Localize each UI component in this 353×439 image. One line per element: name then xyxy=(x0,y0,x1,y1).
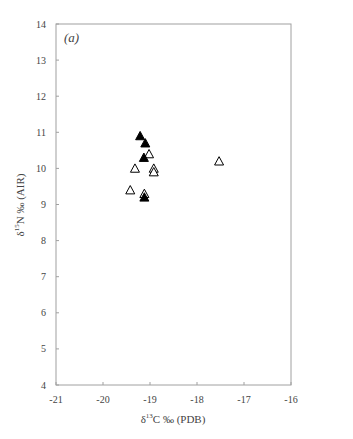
x-tick-label: -20 xyxy=(96,394,109,405)
y-tick-label: 11 xyxy=(36,127,46,138)
y-tick-label: 5 xyxy=(41,343,46,354)
x-tick-label: -18 xyxy=(190,394,203,405)
y-tick-label: 12 xyxy=(36,91,46,102)
x-tick-label: -21 xyxy=(49,394,62,405)
y-tick-label: 7 xyxy=(41,271,46,282)
panel-label: (a) xyxy=(64,30,79,45)
y-tick-label: 10 xyxy=(36,163,46,174)
plot-frame xyxy=(56,24,291,385)
y-tick-label: 9 xyxy=(41,199,46,210)
data-points xyxy=(126,131,224,201)
y-tick-label: 8 xyxy=(41,235,46,246)
y-tick-label: 4 xyxy=(41,380,46,391)
open-triangle-marker xyxy=(130,164,139,172)
x-axis-title: δ13C ‰ (PDB) xyxy=(141,412,206,426)
y-tick-label: 6 xyxy=(41,307,46,318)
open-triangle-marker xyxy=(215,157,224,165)
filled-triangle-marker xyxy=(136,131,145,139)
open-triangle-marker xyxy=(126,186,135,194)
y-axis-title: δ15N ‰ (AIR) xyxy=(13,173,27,236)
y-tick-label: 13 xyxy=(36,55,46,66)
x-tick-label: -16 xyxy=(284,394,297,405)
x-tick-label: -17 xyxy=(237,394,250,405)
scatter-chart: -21-20-19-18-17-16 4567891011121314 (a) … xyxy=(0,0,353,439)
x-tick-label: -19 xyxy=(143,394,156,405)
y-tick-label: 14 xyxy=(36,19,46,30)
